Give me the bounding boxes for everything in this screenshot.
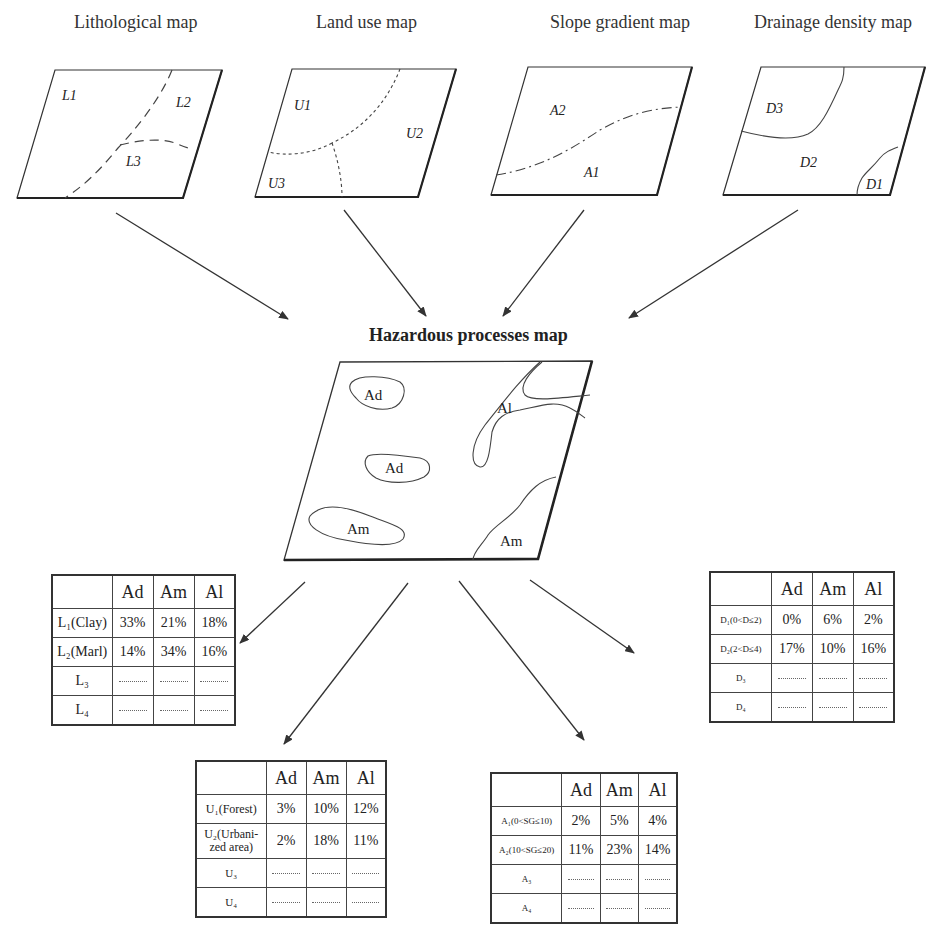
- hazard-label: Ad: [385, 460, 404, 476]
- row-label: A₃: [491, 865, 562, 894]
- value-cell: [112, 696, 153, 726]
- value-cell: 4%: [639, 807, 677, 836]
- map-label: D1: [865, 177, 883, 192]
- lithology-table: Ad Am Al L₁(Clay) 33% 21% 18% L₂(Marl) 1…: [51, 574, 236, 726]
- table-row: D₁(0<D≤2) 0% 6% 2%: [710, 606, 894, 635]
- hazard-label: Am: [347, 521, 370, 537]
- empty-value-placeholder: [645, 908, 671, 909]
- row-label: D₄: [710, 693, 771, 723]
- table-row: U₂(Urbani-zed area) 2% 18% 11%: [196, 824, 386, 859]
- table-row: L₁(Clay) 33% 21% 18%: [52, 609, 235, 638]
- empty-value-placeholder: [160, 710, 188, 711]
- value-cell: [266, 859, 306, 888]
- empty-value-placeholder: [119, 710, 147, 711]
- header-cell: Ad: [771, 572, 812, 606]
- row-label: L₃: [52, 667, 112, 696]
- header-cell: [491, 773, 562, 807]
- map-label: U1: [294, 98, 311, 113]
- table-row: U₄: [196, 888, 386, 918]
- arrow-landuse-to-hazard: [344, 210, 426, 316]
- value-cell: [194, 696, 235, 726]
- header-cell: Am: [306, 761, 346, 795]
- drainage-table: Ad Am Al D₁(0<D≤2) 0% 6% 2% D₂(2<D≤4) 17…: [709, 571, 895, 723]
- value-cell: [153, 667, 194, 696]
- table-row: U₁(Forest) 3% 10% 12%: [196, 795, 386, 824]
- empty-value-placeholder: [859, 678, 887, 679]
- empty-value-placeholder: [200, 681, 228, 682]
- empty-value-placeholder: [312, 902, 339, 903]
- value-cell: 14%: [112, 638, 153, 667]
- value-cell: [600, 865, 638, 894]
- empty-value-placeholder: [778, 678, 806, 679]
- row-label: L₁(Clay): [52, 609, 112, 638]
- empty-value-placeholder: [272, 873, 299, 874]
- table-header-row: Ad Am Al: [196, 761, 386, 795]
- value-cell: 16%: [853, 635, 894, 664]
- value-cell: [153, 696, 194, 726]
- table-row: A₄: [491, 894, 677, 924]
- row-label: D₁(0<D≤2): [710, 606, 771, 635]
- value-cell: [853, 664, 894, 693]
- value-cell: 16%: [194, 638, 235, 667]
- value-cell: 2%: [562, 807, 600, 836]
- value-cell: 5%: [600, 807, 638, 836]
- value-cell: 18%: [306, 824, 346, 859]
- value-cell: [562, 894, 600, 924]
- value-cell: 14%: [639, 836, 677, 865]
- empty-value-placeholder: [272, 902, 299, 903]
- header-cell: [52, 575, 112, 609]
- value-cell: [853, 693, 894, 723]
- table-row: L₄: [52, 696, 235, 726]
- header-cell: Al: [194, 575, 235, 609]
- header-cell: Al: [346, 761, 386, 795]
- row-label: A₁(0<SG≤10): [491, 807, 562, 836]
- table-row: A₃: [491, 865, 677, 894]
- header-cell: Al: [853, 572, 894, 606]
- value-cell: 3%: [266, 795, 306, 824]
- table-row: L₂(Marl) 14% 34% 16%: [52, 638, 235, 667]
- slope-gradient-table: Ad Am Al A₁(0<SG≤10) 2% 5% 4% A₂(10<SG≤2…: [490, 772, 678, 924]
- header-cell: Am: [812, 572, 853, 606]
- row-label: D₃: [710, 664, 771, 693]
- value-cell: [306, 859, 346, 888]
- row-label: D₂(2<D≤4): [710, 635, 771, 664]
- value-cell: [306, 888, 346, 918]
- row-label: L₂(Marl): [52, 638, 112, 667]
- table-row: U₃: [196, 859, 386, 888]
- value-cell: [600, 894, 638, 924]
- table-row: A₁(0<SG≤10) 2% 5% 4%: [491, 807, 677, 836]
- value-cell: 21%: [153, 609, 194, 638]
- map-label: L1: [61, 88, 77, 103]
- row-label: L₄: [52, 696, 112, 726]
- table-row: L₃: [52, 667, 235, 696]
- header-cell: Am: [600, 773, 638, 807]
- map-label: D2: [799, 155, 817, 170]
- table-header-row: Ad Am Al: [710, 572, 894, 606]
- value-cell: 18%: [194, 609, 235, 638]
- row-label: A₂(10<SG≤20): [491, 836, 562, 865]
- empty-value-placeholder: [160, 681, 188, 682]
- value-cell: [266, 888, 306, 918]
- empty-value-placeholder: [645, 879, 671, 880]
- empty-value-placeholder: [352, 873, 379, 874]
- empty-value-placeholder: [778, 707, 806, 708]
- header-cell: Ad: [112, 575, 153, 609]
- arrow-slope-to-hazard: [503, 210, 584, 316]
- arrow-hazard-to-drainage-table: [530, 580, 634, 653]
- arrow-lithology-to-hazard: [116, 213, 288, 319]
- map-label: L2: [175, 95, 191, 110]
- header-cell: Am: [153, 575, 194, 609]
- land-use-table: Ad Am Al U₁(Forest) 3% 10% 12% U₂(Urbani…: [195, 760, 387, 918]
- value-cell: 10%: [812, 635, 853, 664]
- value-cell: 34%: [153, 638, 194, 667]
- value-cell: [812, 693, 853, 723]
- map-label: D3: [765, 101, 783, 116]
- value-cell: 17%: [771, 635, 812, 664]
- empty-value-placeholder: [606, 908, 632, 909]
- table-row: D₄: [710, 693, 894, 723]
- row-label: U₄: [196, 888, 266, 918]
- map-label: U2: [406, 126, 423, 141]
- table-header-row: Ad Am Al: [491, 773, 677, 807]
- map-label: L3: [125, 154, 141, 169]
- value-cell: 11%: [346, 824, 386, 859]
